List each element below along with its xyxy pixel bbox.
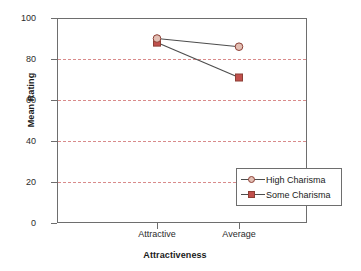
legend-item-high-charisma: High Charisma — [240, 172, 337, 187]
legend-marker-circle-icon — [240, 173, 266, 187]
legend: High Charisma Some Charisma — [236, 168, 342, 206]
data-point-high-charisma-attractive — [153, 35, 161, 43]
legend-item-some-charisma: Some Charisma — [240, 187, 337, 202]
series-line-some-charisma — [157, 43, 239, 78]
legend-label-high-charisma: High Charisma — [266, 175, 326, 185]
data-point-high-charisma-average — [235, 43, 243, 51]
chart-figure: 100 80 60 40 20 0 Attractive Average Hig… — [0, 0, 361, 271]
series-line-high-charisma — [157, 39, 239, 47]
series-layer — [0, 0, 361, 271]
data-point-some-charisma-average — [236, 74, 243, 81]
legend-label-some-charisma: Some Charisma — [266, 190, 331, 200]
x-axis-title: Attractiveness — [40, 250, 310, 260]
y-axis-title: Mean Rating — [26, 55, 36, 145]
legend-marker-square-icon — [240, 188, 266, 202]
